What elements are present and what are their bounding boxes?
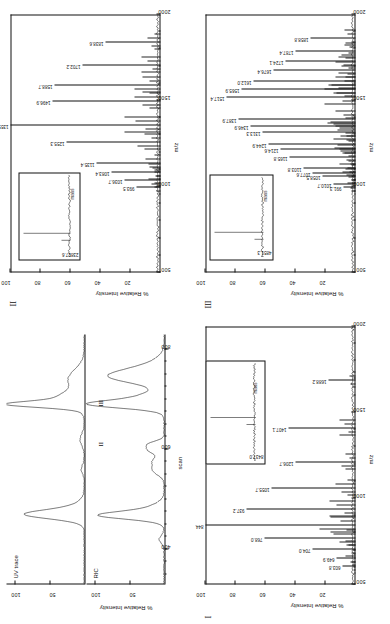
panel-III-peak-stick — [310, 38, 355, 39]
panel-III-peak-stick — [268, 143, 355, 144]
chromatogram-x-minor-tick — [164, 548, 166, 549]
panel-III-x-tick-label: 500 — [356, 266, 365, 272]
panel-III-peak-satellite — [348, 140, 356, 141]
panel-II-peak-stick — [54, 84, 161, 85]
panel-II-peak-satellite — [134, 88, 160, 89]
uv-trace-label: UV trace — [12, 555, 18, 578]
panel-II-peak-satellite — [149, 107, 160, 108]
panel-I-inset-trace — [207, 360, 265, 462]
panel-II-peak-satellite — [145, 158, 161, 159]
panel-II-x-tick-label: 2000 — [158, 8, 170, 14]
chromatogram-x-minor-tick — [164, 486, 166, 487]
panel-III-peak-satellite — [345, 133, 356, 134]
panel-I-figure: 50010001500200010080604020603.8649.9704.… — [195, 312, 390, 624]
panel-II-y-tick-label: 80 — [34, 279, 40, 285]
panel-III-peak-stick — [253, 80, 355, 81]
panel-III-peak-satellite — [345, 57, 355, 58]
panel-I-peak-satellite — [319, 528, 355, 529]
panel-III-peak-satellite — [334, 147, 355, 148]
panel-III-peak-satellite — [342, 171, 355, 172]
chromatogram-x-minor-tick — [164, 536, 166, 537]
panel-III-peak-label: 1165.8 — [273, 155, 287, 160]
panel-II-y-tick-label: 20 — [124, 279, 130, 285]
panel-III-peak-satellite — [348, 176, 355, 177]
panel-I-peak-satellite — [352, 550, 355, 551]
panel-III-peak-satellite — [343, 115, 355, 116]
panel-II-peak-satellite — [144, 148, 160, 149]
chromatogram-ric-y-tick — [129, 580, 130, 584]
panel-II-peak-satellite — [149, 80, 160, 81]
chromatogram-y-axis-title: % Relative Intensity — [99, 604, 152, 610]
panel-I-peak-satellite — [335, 484, 355, 485]
panel-II-peak-satellite — [152, 69, 160, 70]
panel-II-peak-satellite — [155, 175, 160, 176]
panel-III-y-tick-label: 80 — [229, 279, 235, 285]
chromatogram-ric-y-axis — [86, 583, 164, 584]
panel-II-peak-satellite — [148, 178, 160, 179]
panel-III-peak-label: 1858.8 — [294, 36, 308, 41]
panel-III-peak-satellite — [337, 144, 355, 145]
panel-II-x-axis-title: m/z — [172, 142, 178, 152]
panel-III-peak-stick — [295, 50, 355, 51]
panel-III-peak-satellite — [339, 127, 355, 128]
panel-II-peak-satellite — [151, 183, 160, 184]
panel-III-peak-satellite — [324, 103, 355, 104]
panel-II-peak-satellite — [154, 33, 160, 34]
panel-I-y-axis-title: % Relative Intensity — [290, 602, 343, 608]
panel-III-peak-satellite — [343, 65, 355, 66]
panel-I-y-tick-label: 60 — [259, 591, 265, 597]
panel-II-peak-label: 1838.6 — [88, 40, 102, 45]
panel-I-y-tick-label: 40 — [289, 591, 295, 597]
panel-III-peak-label: 1103.8 — [287, 166, 301, 171]
panel-III-peak-stick — [238, 119, 355, 120]
panel-III-inset: 4851.3 mass — [209, 174, 273, 260]
panel-II-peak-stick — [105, 41, 161, 42]
panel-I-peak-satellite — [349, 458, 355, 459]
panel-I-y-tick-label: 20 — [319, 591, 325, 597]
panel-III-peak-satellite — [346, 174, 355, 175]
chromatogram-x-minor-tick — [164, 386, 166, 387]
panel-I-id: I — [203, 615, 212, 618]
panel-I-peak-satellite — [347, 495, 355, 496]
panel-II-figure: 50010001500200010080604020993.51036.7108… — [0, 0, 195, 312]
panel-III-peak-label: 1787.4 — [279, 49, 293, 54]
panel-III-peak-stick — [262, 131, 355, 132]
panel-II-quadrant: 50010001500200010080604020993.51036.7108… — [0, 0, 195, 312]
panel-III-peak-satellite — [335, 76, 355, 77]
panel-I-peak-satellite — [345, 454, 355, 455]
panel-I-peak-satellite — [346, 529, 355, 530]
chromatogram-x-minor-tick — [164, 561, 166, 562]
panel-II-peak-satellite — [141, 72, 160, 73]
panel-III-x-tick-label: 2000 — [353, 8, 365, 14]
figure-page: 50010001500200010080604020993.51036.7108… — [0, 0, 390, 624]
panel-III-peak-satellite — [348, 161, 355, 162]
panel-III-peak-satellite — [342, 100, 355, 101]
panel-II-peak-satellite — [124, 116, 160, 117]
panel-III-peak-satellite — [346, 159, 355, 160]
panel-III-peak-satellite — [348, 53, 355, 54]
panel-III-peak-label: 1214.6 — [264, 147, 278, 152]
panel-I-x-axis-title: m/z — [367, 454, 373, 464]
panel-I-peak-satellite — [339, 541, 355, 542]
panel-I-peak-label: 768.0 — [250, 536, 262, 541]
chromatogram-ric-y-tick — [94, 580, 95, 584]
panel-II-peak-satellite — [137, 145, 160, 146]
panel-II-peak-satellite — [149, 166, 160, 167]
chromatogram-ric-y-tick-label: 100 — [91, 591, 100, 597]
chromatogram-x-minor-tick — [164, 473, 166, 474]
panel-II-peak-label: 1496.9 — [36, 99, 50, 104]
panel-III-peak-stick — [333, 183, 356, 184]
panel-II-peak-satellite — [154, 154, 161, 155]
panel-II-peak-satellite — [147, 61, 160, 62]
chromatogram-traces — [6, 334, 166, 584]
panel-I-peak-label: 1206.7 — [279, 460, 293, 465]
panel-I-peak-satellite — [346, 544, 355, 545]
panel-II-peak-label: 1355.0 — [0, 123, 8, 128]
panel-II-peak-stick — [111, 171, 161, 172]
panel-I-peak-stick — [295, 462, 355, 463]
panel-II-peak-satellite — [134, 96, 160, 97]
chromatogram-x-minor-tick — [164, 398, 166, 399]
panel-I-peak-satellite — [347, 480, 355, 481]
panel-I-y-tick-label: 80 — [229, 591, 235, 597]
panel-I-peak-label: 603.8 — [328, 564, 340, 569]
